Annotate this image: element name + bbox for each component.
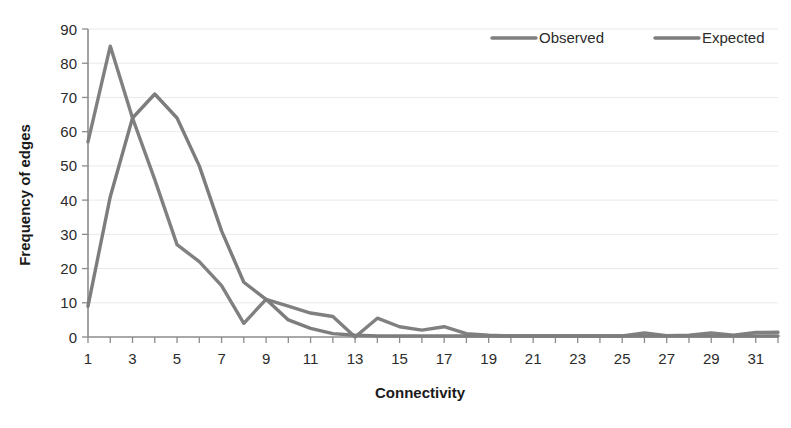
- x-tick-label-13: 13: [347, 350, 364, 367]
- legend-label-expected: Expected: [702, 29, 765, 46]
- x-tick-label-3: 3: [128, 350, 136, 367]
- y-tick-label-80: 80: [60, 55, 77, 72]
- x-tick-label-17: 17: [436, 350, 453, 367]
- connectivity-frequency-line-chart: 0102030405060708090 13579111315171921232…: [0, 0, 791, 428]
- y-tick-label-40: 40: [60, 192, 77, 209]
- x-tick-label-19: 19: [480, 350, 497, 367]
- x-tick-label-9: 9: [262, 350, 270, 367]
- y-tick-label-50: 50: [60, 157, 77, 174]
- y-tick-label-90: 90: [60, 21, 77, 38]
- x-tick-label-29: 29: [703, 350, 720, 367]
- y-tick-label-70: 70: [60, 89, 77, 106]
- x-tick-label-31: 31: [747, 350, 764, 367]
- y-tick-label-20: 20: [60, 260, 77, 277]
- y-axis-title: Frequency of edges: [16, 124, 33, 266]
- x-tick-label-7: 7: [217, 350, 225, 367]
- x-tick-label-27: 27: [658, 350, 675, 367]
- x-tick-label-15: 15: [391, 350, 408, 367]
- x-tick-label-11: 11: [303, 350, 319, 367]
- x-tick-label-5: 5: [173, 350, 181, 367]
- x-axis-title: Connectivity: [375, 384, 466, 401]
- y-tick-label-30: 30: [60, 226, 77, 243]
- chart-container: 0102030405060708090 13579111315171921232…: [0, 0, 791, 428]
- y-tick-label-0: 0: [69, 329, 77, 346]
- y-tick-label-10: 10: [60, 294, 77, 311]
- x-tick-label-23: 23: [569, 350, 586, 367]
- x-tick-label-1: 1: [84, 350, 92, 367]
- x-tick-label-25: 25: [614, 350, 631, 367]
- legend-label-observed: Observed: [539, 29, 604, 46]
- x-tick-label-21: 21: [525, 350, 542, 367]
- y-tick-label-60: 60: [60, 123, 77, 140]
